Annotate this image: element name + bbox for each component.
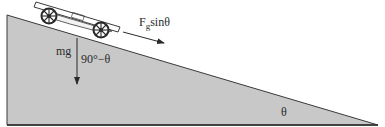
force-parallel-label: Fgsinθ: [139, 15, 170, 31]
inclined-plane-diagram: Fgsinθ mg 90°−θ θ: [0, 0, 385, 127]
cart-wheel-rear-icon: [94, 23, 109, 38]
incline-ramp: [7, 15, 378, 125]
down-slope-force-arrow-icon: [123, 32, 164, 43]
incline-angle-label: θ: [281, 105, 287, 119]
weight-label: mg: [56, 44, 71, 58]
angle-complement-label: 90°−θ: [81, 52, 111, 66]
cart-wheel-front-icon: [42, 9, 57, 24]
force-parallel-sin: sinθ: [150, 15, 170, 29]
